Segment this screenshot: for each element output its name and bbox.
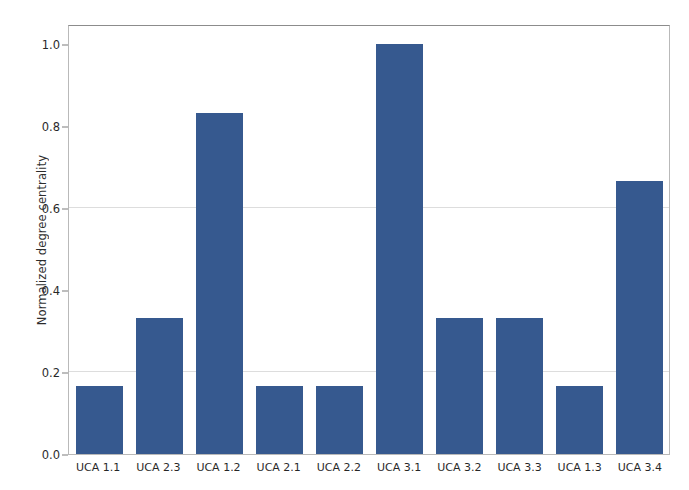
y-axis-tick-mark [62,373,68,374]
bar-slot [189,26,249,454]
bar-slot [309,26,369,454]
bar-slot [489,26,549,454]
bar-chart-figure: Normalized degree centrality UCA 1.1UCA … [0,0,689,490]
bar[interactable] [76,386,123,454]
y-axis-label: Normalized degree centrality [32,25,52,455]
bar[interactable] [136,318,183,454]
y-axis-tick-label: 0.8 [24,120,60,134]
y-axis-tick-mark [62,209,68,210]
bar-slot [369,26,429,454]
y-axis-tick-mark [62,45,68,46]
bar[interactable] [376,44,423,454]
y-axis-tick-label: 0.2 [24,366,60,380]
bar-slot [549,26,609,454]
bar[interactable] [256,386,303,454]
bar-series [69,26,669,454]
x-axis-tick-label: UCA 2.2 [309,458,369,478]
bar-slot [609,26,669,454]
y-axis-tick-label: 1.0 [24,38,60,52]
y-axis-tick-mark [62,455,68,456]
bar-slot [69,26,129,454]
x-axis-tick-label: UCA 1.3 [550,458,610,478]
x-axis-tick-label: UCA 1.2 [188,458,248,478]
x-axis-tick-label: UCA 3.3 [489,458,549,478]
bar[interactable] [196,113,243,454]
bar-slot [249,26,309,454]
plot-area [68,25,670,455]
x-axis-tick-label: UCA 1.1 [68,458,128,478]
bar[interactable] [616,181,663,454]
x-axis-tick-label: UCA 3.1 [369,458,429,478]
bar[interactable] [436,318,483,454]
bar[interactable] [316,386,363,454]
y-axis-tick-mark [62,127,68,128]
bar[interactable] [556,386,603,454]
x-axis-tick-label: UCA 3.2 [429,458,489,478]
x-axis-tick-labels: UCA 1.1UCA 2.3UCA 1.2UCA 2.1UCA 2.2UCA 3… [68,458,670,478]
x-axis-tick-label: UCA 2.1 [249,458,309,478]
x-axis-tick-label: UCA 3.4 [610,458,670,478]
bar-slot [129,26,189,454]
y-axis-tick-mark [62,291,68,292]
bar[interactable] [496,318,543,454]
x-axis-tick-label: UCA 2.3 [128,458,188,478]
y-axis-tick-label: 0.0 [24,448,60,462]
y-axis-tick-label: 0.4 [24,284,60,298]
bar-slot [429,26,489,454]
y-axis-tick-label: 0.6 [24,202,60,216]
